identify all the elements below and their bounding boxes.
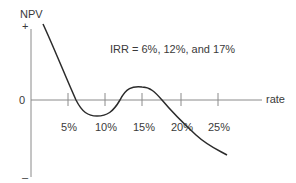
x-tick-label: 15%	[133, 122, 155, 133]
irr-annotation: IRR = 6%, 12%, and 17%	[110, 44, 235, 55]
x-tick-label: 25%	[208, 122, 230, 133]
y-axis-label: NPV	[20, 9, 43, 20]
y-plus-marker: +	[22, 21, 28, 32]
x-axis-label: rate	[266, 94, 285, 105]
y-minus-marker: –	[22, 172, 28, 183]
npv-chart	[0, 0, 296, 183]
x-tick-label: 20%	[171, 122, 193, 133]
y-zero-label: 0	[19, 95, 25, 106]
x-tick-label: 5%	[61, 122, 77, 133]
x-tick-label: 10%	[95, 122, 117, 133]
